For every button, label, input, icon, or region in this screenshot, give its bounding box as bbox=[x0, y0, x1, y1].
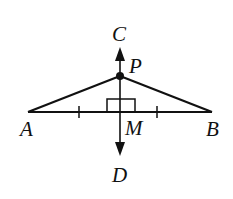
segment-pa bbox=[28, 76, 120, 112]
label-m: M bbox=[124, 116, 144, 140]
label-b: B bbox=[206, 117, 219, 141]
arrow-down-icon bbox=[115, 142, 125, 156]
point-p bbox=[116, 72, 124, 80]
label-c: C bbox=[112, 22, 127, 46]
right-angle-marker bbox=[107, 99, 135, 112]
label-d: D bbox=[111, 163, 127, 187]
perpendicular-bisector-diagram: C P A M B D bbox=[0, 0, 233, 199]
label-p: P bbox=[128, 54, 142, 78]
arrow-up-icon bbox=[115, 47, 125, 61]
label-a: A bbox=[18, 117, 33, 141]
segment-pb bbox=[120, 76, 212, 112]
